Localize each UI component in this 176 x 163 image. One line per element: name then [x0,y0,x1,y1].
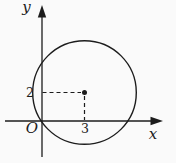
diagram-canvas: y x O 2 3 [0,0,176,163]
circle-center-dot [82,90,87,95]
center-y-coordinate-label: 2 [26,85,34,100]
coordinate-diagram: y x O 2 3 [0,0,176,163]
x-axis-arrowhead [151,117,164,125]
origin-label: O [26,119,38,137]
y-axis-arrowhead [38,5,46,18]
y-axis-label: y [21,0,31,16]
x-axis-label: x [149,125,158,143]
center-x-coordinate-label: 3 [81,121,89,136]
